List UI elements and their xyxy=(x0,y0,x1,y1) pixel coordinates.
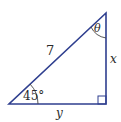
angle-45-label: 45° xyxy=(23,90,44,102)
triangle-drawing xyxy=(0,0,121,122)
side-y-label: y xyxy=(56,107,63,119)
hypotenuse-label: 7 xyxy=(46,44,54,57)
side-x-label: x xyxy=(110,53,117,65)
right-angle-marker xyxy=(98,96,106,104)
triangle-figure: 7 θ 45° x y xyxy=(0,0,121,122)
theta-label: θ xyxy=(94,23,101,34)
